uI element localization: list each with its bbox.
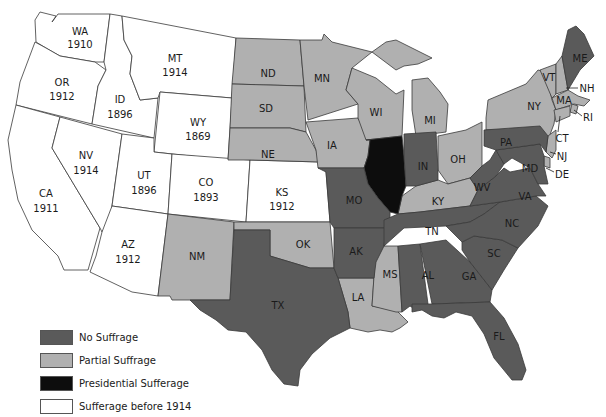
legend-item-partial-suffrage: Partial Suffrage — [40, 350, 191, 370]
legend-item-suffrage-before-1914: Sufferage before 1914 — [40, 396, 191, 416]
state-MI — [412, 78, 448, 136]
label-OK: OK — [296, 239, 311, 250]
year-OR: 1912 — [49, 91, 74, 102]
year-WA: 1910 — [67, 39, 92, 50]
label-WA: WA — [72, 26, 88, 37]
label-RI: RI — [583, 112, 593, 123]
year-KS: 1912 — [269, 201, 294, 212]
label-CT: CT — [555, 133, 569, 144]
state-CO — [168, 154, 250, 222]
legend-item-no-suffrage: No Suffrage — [40, 327, 191, 347]
legend-item-presidential-suffrage: Presidential Sufferage — [40, 373, 191, 393]
label-NJ: NJ — [557, 151, 567, 162]
label-IA: IA — [327, 140, 337, 151]
legend-swatch — [40, 399, 73, 414]
legend: No Suffrage Partial Suffrage Presidentia… — [40, 327, 191, 417]
label-NH: NH — [580, 83, 595, 94]
label-NV: NV — [79, 150, 93, 161]
label-WV: WV — [474, 182, 491, 193]
label-FL: FL — [493, 331, 505, 342]
label-VT: VT — [543, 72, 557, 83]
legend-swatch — [40, 376, 73, 391]
label-NE: NE — [261, 149, 275, 160]
label-OH: OH — [450, 154, 465, 165]
year-MT: 1914 — [162, 67, 187, 78]
state-DE — [544, 156, 550, 168]
year-CA: 1911 — [33, 203, 58, 214]
label-KY: KY — [432, 196, 445, 207]
legend-label: Partial Suffrage — [79, 355, 156, 366]
legend-swatch — [40, 353, 73, 368]
year-UT: 1896 — [131, 185, 156, 196]
label-WI: WI — [370, 107, 383, 118]
label-OR: OR — [55, 77, 70, 88]
legend-swatch — [40, 330, 73, 345]
label-TN: TN — [424, 226, 439, 237]
label-DE: DE — [555, 169, 569, 180]
label-NC: NC — [505, 218, 519, 229]
state-IN — [404, 132, 438, 186]
state-MI-upper — [372, 40, 432, 70]
label-MO: MO — [346, 195, 363, 206]
label-UT: UT — [137, 170, 151, 181]
label-SD: SD — [259, 103, 273, 114]
label-MS: MS — [383, 269, 398, 280]
label-WY: WY — [190, 117, 207, 128]
label-VA: VA — [518, 191, 531, 202]
label-NY: NY — [527, 101, 541, 112]
label-GA: GA — [462, 271, 477, 282]
label-MN: MN — [314, 73, 330, 84]
year-CO: 1893 — [193, 192, 218, 203]
label-PA: PA — [500, 137, 512, 148]
label-CA: CA — [39, 188, 53, 199]
label-AK: AK — [349, 246, 363, 257]
label-MI: MI — [424, 115, 436, 126]
legend-label: Presidential Sufferage — [79, 378, 189, 389]
year-AZ: 1912 — [115, 254, 140, 265]
label-AZ: AZ — [121, 239, 135, 250]
label-AL: AL — [422, 270, 435, 281]
label-ID: ID — [115, 94, 126, 105]
year-ID: 1896 — [107, 109, 132, 120]
label-NM: NM — [189, 251, 205, 262]
state-FL — [412, 302, 526, 380]
label-CO: CO — [199, 177, 214, 188]
label-TX: TX — [271, 300, 285, 311]
label-SC: SC — [487, 248, 500, 259]
label-LA: LA — [352, 292, 365, 303]
label-KS: KS — [276, 187, 289, 198]
label-ND: ND — [260, 68, 275, 79]
label-ME: ME — [573, 53, 588, 64]
year-NV: 1914 — [73, 165, 98, 176]
label-MD: MD — [522, 163, 539, 174]
legend-label: No Suffrage — [79, 332, 138, 343]
label-IN: IN — [418, 161, 428, 172]
legend-label: Sufferage before 1914 — [79, 401, 191, 412]
year-WY: 1869 — [185, 131, 210, 142]
label-MA: MA — [556, 95, 572, 106]
label-MT: MT — [168, 53, 184, 64]
